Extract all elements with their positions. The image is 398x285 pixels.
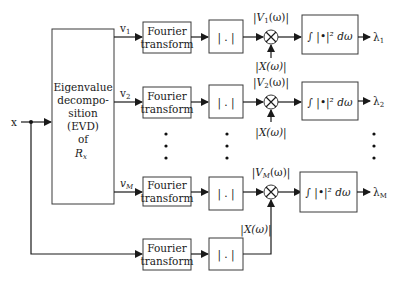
fourier-label: transform	[141, 192, 194, 204]
evd-line-1: Eigenvalue	[53, 81, 112, 93]
channel-1: v1 Fourier transform | . | |V1(ω)| |X(ω)…	[114, 11, 384, 74]
fourier-label: transform	[141, 103, 194, 115]
evd-line-4: (EVD)	[67, 120, 99, 132]
eigvec-label-m: vM	[120, 177, 134, 191]
mag-label-m: |VM(ω)|	[252, 166, 291, 180]
evd-line-5: of	[78, 133, 89, 145]
fourier-label: Fourier	[147, 242, 187, 254]
evd-spectral-diagram: x Eigenvalue decompo- sition (EVD) of Rx…	[0, 0, 398, 285]
x-mag-label-2: |X(ω)|	[255, 126, 286, 140]
output-label-m: λM	[373, 186, 387, 200]
channel-m: vM Fourier transform | . | |VM(ω)| ∫ |•|…	[114, 166, 387, 212]
evd-block: Eigenvalue decompo- sition (EVD) of Rx	[52, 29, 114, 204]
mag-label-2: |V2(ω)|	[253, 76, 289, 90]
eigvec-label-1: v1	[119, 22, 130, 36]
fourier-label: transform	[141, 38, 194, 50]
fourier-label: Fourier	[147, 179, 187, 191]
fourier-label: transform	[141, 255, 194, 267]
mag-label-1: |V1(ω)|	[253, 11, 289, 25]
integral-label: ∫ |•|² dω	[308, 30, 353, 44]
abs-label: | . |	[217, 31, 234, 45]
abs-label: | . |	[217, 187, 234, 201]
integral-label: ∫ |•|² dω	[308, 96, 353, 110]
abs-label: | . |	[217, 248, 234, 262]
fourier-label: Fourier	[147, 25, 187, 37]
x-mag-label-1: |X(ω)|	[255, 60, 286, 74]
reference-path: Fourier transform | . | |X(ω)|	[141, 200, 272, 270]
integral-label: ∫ |•|² dω	[306, 186, 351, 200]
evd-line-2: decompo-	[57, 94, 109, 106]
eigvec-label-2: v2	[119, 87, 130, 101]
output-label-2: λ2	[373, 95, 384, 109]
channel-2: v2 Fourier transform | . | |V2(ω)| |X(ω)…	[114, 76, 384, 140]
input-label: x	[11, 116, 17, 128]
output-label-1: λ1	[373, 31, 384, 45]
evd-line-3: sition	[68, 107, 98, 119]
x-mag-label-m: |X(ω)|	[240, 223, 271, 237]
fourier-label: Fourier	[147, 90, 187, 102]
abs-label: | . |	[217, 96, 234, 110]
